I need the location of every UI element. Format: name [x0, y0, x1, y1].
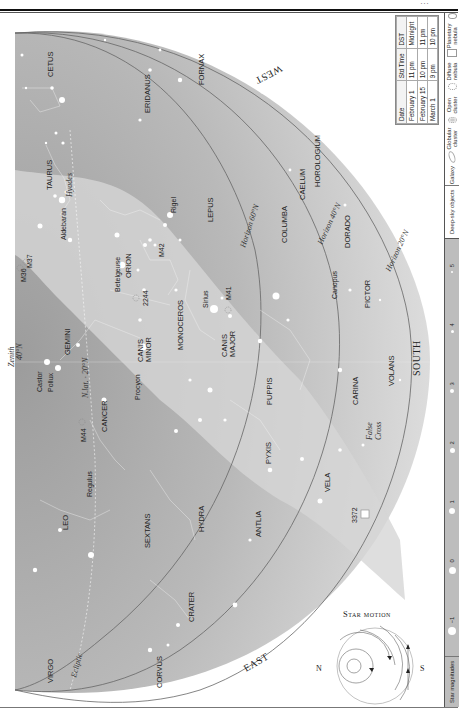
mag-label: 4	[449, 323, 455, 326]
label-carina: CARINA	[351, 377, 360, 405]
legend-mag-item: 2	[449, 418, 455, 478]
label-2244: 2244	[142, 290, 149, 306]
label-caelum: CAELUM	[298, 169, 307, 200]
star-chart: CETUS ERIDANUS FORNAX TAURUS ORION LEPUS…	[0, 0, 444, 708]
label-aldebaran: Aldebaran	[60, 208, 67, 240]
legend-deep-sky: Deep-sky objects Galaxy Globular cluster…	[445, 13, 459, 238]
label-corvus: CORVUS	[155, 656, 164, 688]
label-leo: LEO	[61, 515, 70, 530]
label-antlia: ANTLIA	[254, 511, 263, 537]
mag-dot-icon	[448, 627, 456, 635]
label-eridanus: ERIDANUS	[143, 74, 152, 113]
dso-label: Planetary nebula	[446, 22, 458, 49]
tt-row: February 15 10 pm 11 pm	[417, 17, 427, 124]
label-vela: VELA	[323, 473, 332, 492]
label-orion: ORION	[124, 253, 133, 278]
label-crater: CRATER	[187, 591, 196, 622]
label-lat-marks: N.lat. · 20°N	[81, 357, 90, 399]
star-motion-diagram	[337, 626, 413, 704]
star-motion-n: N	[316, 664, 322, 673]
label-horologium: HOROLOGIUM	[313, 135, 322, 187]
tt-cell: February 15	[417, 81, 427, 124]
star-motion-s: S	[420, 664, 425, 673]
dso-label: Galaxy	[449, 166, 455, 184]
tt-header-dst: DST	[397, 17, 407, 49]
dso-label: Globular cluster	[446, 126, 458, 151]
label-m44: M44	[80, 428, 87, 442]
mag-dot-icon	[449, 567, 456, 574]
legend-open: Open cluster	[446, 83, 458, 117]
label-false-cross: FalseCross	[365, 422, 383, 441]
legend-star-magnitudes: Star magnitudes −1 0 1 2 3 4 5	[445, 238, 459, 707]
mag-label: 0	[449, 559, 455, 562]
mag-label: −1	[449, 617, 455, 624]
legend-mag-item: 1	[449, 477, 455, 537]
label-south: SOUTH	[411, 340, 422, 376]
label-regulus: Regulus	[86, 471, 94, 497]
diffuse-nebula-icon	[447, 50, 457, 57]
legend-mag-title: Star magnitudes	[445, 656, 459, 707]
tt-cell: 11 pm	[407, 48, 417, 81]
label-castor: Castor	[36, 371, 43, 392]
label-lepus: LEPUS	[206, 197, 215, 222]
tt-row: March 1 9 pm 10 pm	[427, 17, 437, 124]
label-sirius: Sirius	[202, 290, 209, 308]
label-zenith-40: 40°N	[15, 343, 24, 360]
label-fornax: FORNAX	[197, 54, 206, 85]
mag-label: 2	[449, 441, 455, 444]
tt-cell: 10 pm	[427, 17, 437, 49]
legend-diffuse: Diffuse nebula	[446, 50, 458, 84]
legend-globular: Globular cluster	[446, 117, 458, 151]
label-puppis: PUPPIS	[265, 377, 274, 405]
tt-header-date: Date	[397, 81, 407, 124]
label-volans: VOLANS	[387, 356, 396, 386]
legend-galaxy: Galaxy	[449, 151, 455, 185]
label-taurus: TAURUS	[45, 160, 54, 190]
tt-header-std: Std Time	[397, 48, 407, 81]
legend-mag-item: 0	[449, 537, 456, 597]
label-m41: M41	[225, 286, 232, 300]
mag-dot-icon	[449, 508, 455, 514]
globular-cluster-icon	[448, 117, 457, 123]
legend-mag-item: 4	[449, 299, 455, 359]
time-table: Date Std Time DST February 1 11 pm Midni…	[395, 15, 439, 125]
label-virgo: VIRGO	[46, 659, 55, 683]
label-betelgeuse: Betelgeuse	[114, 257, 122, 292]
label-canopus: Canopus	[331, 270, 339, 299]
label-m42: M42	[158, 243, 165, 257]
label-columba: COLUMBA	[280, 206, 289, 243]
label-hydra: HYDRA	[197, 506, 206, 532]
galaxy-icon	[447, 150, 457, 163]
label-procyon: Procyon	[134, 374, 142, 400]
label-cetus: CETUS	[46, 52, 55, 77]
label-west: WEST	[253, 63, 284, 86]
mag-dot-icon	[450, 448, 455, 453]
mag-label: 3	[449, 382, 455, 385]
dso-label: Diffuse nebula	[446, 60, 458, 84]
label-gemini: GEMINI	[63, 328, 72, 355]
label-sextans: SEXTANS	[143, 514, 152, 548]
legend-planetary: Planetary nebula	[446, 13, 458, 50]
bottom-rule	[0, 707, 458, 708]
label-m37: M37	[26, 254, 33, 268]
label-canis-minor: CANISMINOR	[136, 336, 153, 362]
planetary-nebula-icon	[448, 13, 457, 19]
mag-label: 5	[449, 264, 455, 267]
label-m36: M36	[20, 268, 27, 282]
tt-cell: 9 pm	[427, 48, 437, 81]
dso-label: Open cluster	[446, 93, 458, 117]
label-hyades: Hyades	[65, 173, 74, 198]
open-cluster-icon	[448, 83, 457, 90]
label-rigel: Rigel	[170, 197, 178, 213]
label-pictor: PICTOR	[363, 279, 372, 308]
label-canis-major: CANISMAJOR	[220, 330, 237, 357]
label-pollux: Pollux	[47, 372, 54, 392]
label-pyxis: PYXIS	[264, 442, 273, 464]
star-motion-title: Star motion	[343, 609, 391, 619]
label-monoceros: MONOCEROS	[176, 300, 185, 350]
mag-label: 1	[449, 500, 455, 503]
label-cancer: CANCER	[100, 400, 109, 432]
legend-dso-title: Deep-sky objects	[445, 185, 459, 238]
mag-dot-icon	[450, 389, 454, 393]
legend-mag-item: 3	[449, 358, 455, 418]
